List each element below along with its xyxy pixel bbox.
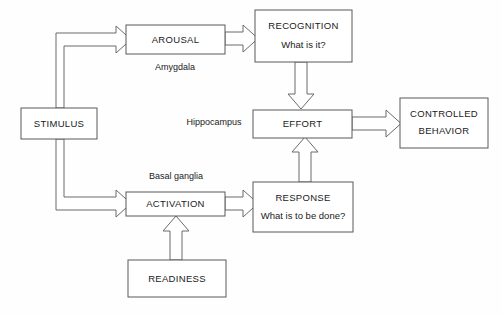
node-response-label: RESPONSE bbox=[275, 192, 330, 203]
node-controlled-behavior-label: CONTROLLED bbox=[410, 108, 478, 119]
arrow-stimulus-to-arousal bbox=[56, 26, 131, 108]
arrow-arousal-to-recognition bbox=[225, 25, 258, 52]
node-stimulus[interactable]: STIMULUS bbox=[21, 108, 97, 139]
node-effort-label: EFFORT bbox=[283, 118, 323, 129]
region-label-basal-ganglia: Basal ganglia bbox=[149, 171, 203, 181]
node-response-box bbox=[253, 182, 353, 232]
node-effort[interactable]: EFFORT bbox=[253, 110, 352, 138]
flowchart-svg: STIMULUS AROUSAL RECOGNITION What is it?… bbox=[0, 0, 502, 315]
diagram-canvas: STIMULUS AROUSAL RECOGNITION What is it?… bbox=[0, 0, 502, 315]
region-label-amygdala: Amygdala bbox=[155, 62, 195, 72]
node-recognition-sublabel: What is it? bbox=[281, 39, 325, 50]
node-response[interactable]: RESPONSE What is to be done? bbox=[253, 182, 353, 232]
arrow-readiness-to-activation bbox=[163, 216, 189, 260]
arrow-effort-to-controlled-behavior bbox=[352, 110, 401, 137]
node-activation-label: ACTIVATION bbox=[146, 198, 205, 209]
node-arousal[interactable]: AROUSAL bbox=[126, 25, 225, 54]
node-stimulus-label: STIMULUS bbox=[34, 118, 84, 129]
node-recognition-box bbox=[255, 10, 352, 62]
node-recognition-label: RECOGNITION bbox=[268, 20, 338, 31]
node-recognition[interactable]: RECOGNITION What is it? bbox=[255, 10, 352, 62]
node-arousal-label: AROUSAL bbox=[152, 34, 200, 45]
node-response-sublabel: What is to be done? bbox=[261, 210, 346, 221]
region-label-hippocampus: Hippocampus bbox=[186, 117, 242, 127]
node-controlled-behavior-box bbox=[400, 98, 488, 148]
arrow-recognition-to-effort bbox=[288, 62, 314, 109]
arrow-stimulus-to-activation bbox=[56, 139, 131, 217]
node-readiness[interactable]: READINESS bbox=[128, 260, 226, 297]
arrow-response-to-effort bbox=[292, 137, 318, 182]
node-controlled-behavior-sublabel: BEHAVIOR bbox=[419, 125, 470, 136]
node-activation[interactable]: ACTIVATION bbox=[126, 192, 225, 216]
node-controlled-behavior[interactable]: CONTROLLED BEHAVIOR bbox=[400, 98, 488, 148]
node-readiness-label: READINESS bbox=[148, 273, 206, 284]
